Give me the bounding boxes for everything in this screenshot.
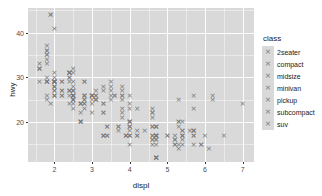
legend-key-cross-icon	[262, 82, 274, 94]
gridline-minor-horizontal	[28, 100, 254, 101]
y-tick-label: 40	[2, 29, 24, 36]
data-point	[100, 109, 107, 116]
data-point	[179, 127, 186, 134]
data-point	[134, 132, 141, 139]
gridline-major-vertical	[167, 8, 168, 162]
data-point	[58, 92, 65, 99]
data-point	[190, 105, 197, 112]
data-point	[153, 132, 160, 139]
legend-item[interactable]: pickup	[262, 94, 322, 106]
data-point	[104, 132, 111, 139]
x-tick-mark	[167, 162, 168, 164]
data-point	[66, 87, 73, 94]
data-point	[153, 154, 160, 161]
gridline-major-horizontal	[28, 33, 254, 34]
data-point	[58, 87, 65, 94]
data-point	[153, 132, 160, 139]
legend-item[interactable]: compact	[262, 58, 322, 70]
data-point	[115, 123, 122, 130]
data-point	[153, 132, 160, 139]
data-point	[115, 127, 122, 134]
legend-item[interactable]: minivan	[262, 82, 322, 94]
data-point	[190, 92, 197, 99]
gridline-minor-vertical	[149, 8, 150, 162]
data-point	[43, 47, 50, 54]
data-point	[100, 132, 107, 139]
data-point	[171, 136, 178, 143]
data-point	[77, 100, 84, 107]
y-tick-mark	[26, 122, 28, 123]
data-point	[58, 78, 65, 85]
data-point	[81, 100, 88, 107]
gridline-minor-horizontal	[28, 55, 254, 56]
data-point	[122, 132, 129, 139]
gridline-minor-horizontal	[28, 10, 254, 11]
data-point	[43, 47, 50, 54]
data-point	[171, 136, 178, 143]
data-point	[209, 92, 216, 99]
data-point	[153, 132, 160, 139]
gridline-minor-vertical	[111, 8, 112, 162]
data-point	[81, 92, 88, 99]
data-point	[43, 92, 50, 99]
y-tick-label: 20	[2, 118, 24, 125]
data-point	[36, 60, 43, 67]
data-point	[47, 11, 54, 18]
legend-key-cross-icon	[262, 118, 274, 130]
data-point	[81, 78, 88, 85]
data-point	[119, 92, 126, 99]
legend-item-label: midsize	[277, 73, 301, 80]
data-point	[43, 60, 50, 67]
x-tick-mark	[205, 162, 206, 164]
plot-panel	[28, 8, 254, 162]
data-point	[100, 83, 107, 90]
data-point	[36, 78, 43, 85]
x-tick-label: 5	[165, 166, 169, 173]
data-point	[66, 69, 73, 76]
legend-item[interactable]: subcompact	[262, 106, 322, 118]
data-point	[149, 123, 156, 130]
legend-item[interactable]: suv	[262, 118, 322, 130]
data-point	[119, 87, 126, 94]
legend-key-cross-icon	[262, 58, 274, 70]
data-point	[66, 100, 73, 107]
y-axis-title: hwy	[8, 70, 17, 110]
x-tick-mark	[92, 162, 93, 164]
legend-item-label: subcompact	[277, 109, 315, 116]
data-point	[149, 136, 156, 143]
x-tick-mark	[54, 162, 55, 164]
gridline-major-vertical	[130, 8, 131, 162]
data-point	[58, 87, 65, 94]
data-point	[149, 105, 156, 112]
legend-key-cross-icon	[262, 106, 274, 118]
gridline-minor-vertical	[224, 8, 225, 162]
gridline-major-vertical	[243, 8, 244, 162]
x-tick-label: 7	[241, 166, 245, 173]
data-point	[153, 154, 160, 161]
gridline-minor-vertical	[73, 8, 74, 162]
data-point	[100, 87, 107, 94]
data-point	[119, 109, 126, 116]
legend-item[interactable]: 2seater	[262, 46, 322, 58]
data-point	[149, 132, 156, 139]
data-point	[43, 78, 50, 85]
data-point	[153, 154, 160, 161]
x-tick-mark	[130, 162, 131, 164]
data-point	[111, 92, 118, 99]
data-point	[171, 132, 178, 139]
legend-key-cross-icon	[262, 46, 274, 58]
data-point	[119, 92, 126, 99]
data-point	[179, 132, 186, 139]
data-point	[190, 127, 197, 134]
legend-item[interactable]: midsize	[262, 70, 322, 82]
gridline-minor-vertical	[36, 8, 37, 162]
gridline-minor-vertical	[186, 8, 187, 162]
data-point	[153, 132, 160, 139]
data-point	[47, 11, 54, 18]
data-point	[100, 109, 107, 116]
data-point	[66, 69, 73, 76]
data-point	[122, 132, 129, 139]
y-tick-mark	[26, 77, 28, 78]
data-point	[149, 123, 156, 130]
data-point	[92, 92, 99, 99]
